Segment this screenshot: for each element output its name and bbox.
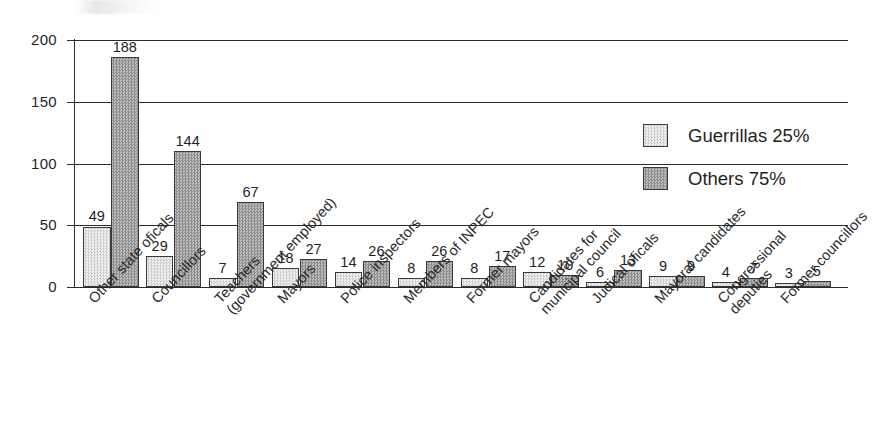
x-axis-label: Councillors	[149, 244, 209, 307]
x-axis-label: Mayors	[275, 261, 319, 306]
x-axis-label: Candidates formunicipal council	[526, 215, 624, 317]
x-axis-category-labels: Other state oficalsCouncillorsTeachers(g…	[0, 0, 878, 445]
x-axis-label-line: Mayors	[275, 261, 319, 306]
x-axis-label-line: Councillors	[149, 244, 209, 307]
x-axis-label-line: Teachers	[212, 184, 328, 307]
bar-chart: 200150100500 491882914476718271426826817…	[0, 0, 878, 445]
